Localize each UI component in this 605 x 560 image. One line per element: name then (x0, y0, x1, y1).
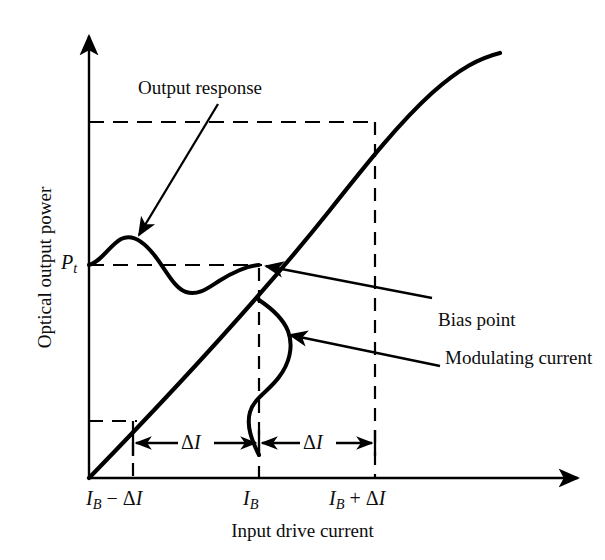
modulating-current-waveform (249, 300, 291, 455)
leader-output-response (139, 104, 218, 235)
leader-modulating-current (290, 335, 440, 366)
x-tick-right-delta-var: I (379, 487, 386, 509)
x-tick-right-operator: + (344, 487, 365, 509)
annotation-modulating-current: Modulating current (445, 348, 592, 367)
dimension-label-delta-i-right: ΔI (303, 432, 323, 452)
reference-lines-group (89, 122, 375, 478)
laser-transfer-curve-diagram (0, 0, 605, 560)
axes-group (89, 36, 578, 478)
x-tick-right-base: I (329, 487, 336, 509)
x-tick-left-delta-var: I (136, 487, 143, 509)
x-tick-label-ib-plus-di: IB + ΔI (329, 488, 385, 511)
annotation-bias-point: Bias point (438, 310, 516, 329)
leader-bias-point (266, 266, 432, 298)
delta-right-symbol: Δ (303, 431, 316, 453)
x-tick-mid-base: I (243, 487, 250, 509)
y-tick-pt-base: P (61, 251, 73, 273)
figure-container: Output response Bias point Modulating cu… (0, 0, 605, 560)
y-tick-label-pt: Pt (61, 252, 77, 275)
delta-right-var: I (316, 431, 323, 453)
dimension-label-delta-i-left: ΔI (181, 432, 201, 452)
dimension-arrows-group (133, 430, 375, 456)
delta-left-symbol: Δ (181, 431, 194, 453)
x-tick-left-operator: − (101, 487, 122, 509)
delta-left-var: I (194, 431, 201, 453)
x-tick-mid-subscript: B (250, 496, 259, 512)
x-tick-left-delta: Δ (123, 487, 136, 509)
x-axis-label: Input drive current (0, 521, 605, 540)
annotation-leaders-group (139, 104, 440, 366)
annotation-output-response: Output response (138, 78, 262, 97)
x-tick-right-delta: Δ (366, 487, 379, 509)
x-tick-label-ib: IB (243, 488, 258, 511)
y-axis-label: Optical output power (35, 158, 54, 378)
y-tick-pt-subscript: t (73, 260, 77, 276)
x-tick-left-base: I (86, 487, 93, 509)
x-tick-label-ib-minus-di: IB − ΔI (86, 488, 142, 511)
